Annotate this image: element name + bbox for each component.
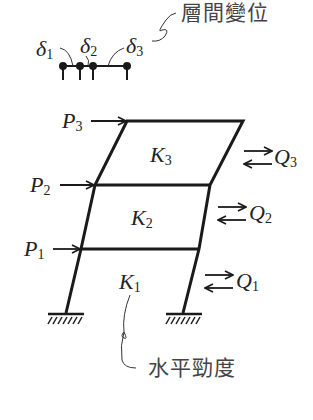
stiffness-label-2: K2: [131, 207, 153, 231]
shear-label-3: Q3: [274, 146, 297, 170]
shear-label-2: Q2: [249, 202, 272, 226]
fixed-support-right: [166, 314, 202, 324]
drift-label-1: δ1: [36, 38, 53, 62]
shear-label-1: Q1: [236, 270, 259, 294]
load-label-3: P3: [62, 110, 82, 134]
drift-label-3: δ3: [126, 35, 143, 59]
load-label-2: P2: [30, 174, 50, 198]
stiffness-label-1: K1: [119, 271, 141, 295]
load-label-1: P1: [24, 238, 44, 262]
drift-leaders: [60, 13, 176, 66]
stiffness-label-3: K3: [150, 144, 172, 168]
drift-label-2: δ2: [80, 35, 97, 59]
story-drift-diagram: δ1 δ2 δ3 層間變位 P3 P2 P1 K3 K2 K1 Q3 Q2 Q1…: [0, 0, 313, 420]
story-drift-label: 層間變位: [181, 3, 269, 24]
fixed-support-left: [48, 314, 84, 324]
stiffness-leader: [121, 295, 136, 368]
lateral-stiffness-label: 水平勁度: [148, 358, 236, 379]
drift-scale: [60, 63, 130, 80]
